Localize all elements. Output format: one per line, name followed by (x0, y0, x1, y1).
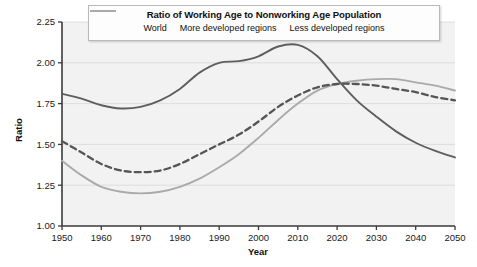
legend-swatch-solid-light-icon (89, 6, 477, 267)
y-axis-title: Ratio (13, 118, 24, 142)
legend-items: World More developed regions Less develo… (89, 23, 439, 33)
legend-item-less-developed: Less developed regions (289, 23, 384, 33)
y-tick-label: 2.25 (37, 16, 56, 27)
y-tick-label: 1.00 (37, 220, 56, 231)
y-tick-label: 2.00 (37, 57, 56, 68)
y-tick-label: 1.75 (37, 98, 56, 109)
x-tick-label: 1950 (51, 232, 72, 243)
y-tick-label: 1.25 (37, 180, 56, 191)
chart-legend: Ratio of Working Age to Nonworking Age P… (88, 5, 440, 41)
y-axis-ticks: 1.001.251.501.752.002.25 (37, 16, 63, 231)
chart-figure: 1.001.251.501.752.002.25 195019601970198… (0, 0, 477, 267)
y-tick-label: 1.50 (37, 139, 56, 150)
